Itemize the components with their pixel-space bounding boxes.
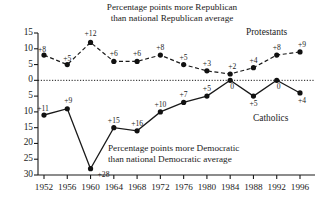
y-axis-tick-label: 15 (13, 123, 33, 132)
data-point (228, 71, 233, 76)
y-axis-tick-label: 25 (13, 154, 33, 163)
data-point-label: +3 (195, 60, 219, 68)
y-axis-tick-label: 15 (13, 28, 33, 37)
x-axis-tick-label: 1996 (285, 183, 315, 192)
y-axis-tick-label: 5 (13, 91, 33, 100)
data-point-label: +12 (79, 30, 103, 38)
data-point-label: +15 (102, 117, 126, 125)
data-point (251, 94, 256, 99)
data-point-label: +7 (172, 91, 196, 99)
data-point-label: +10 (148, 101, 172, 109)
y-axis-tick-label: 5 (13, 60, 33, 69)
data-point-label: +9 (290, 41, 314, 49)
data-point (181, 100, 186, 105)
data-point (251, 65, 256, 70)
x-axis-ticks (44, 175, 300, 179)
chart-container: Percentage points more Republican than n… (0, 0, 325, 202)
data-point-label: +11 (31, 105, 55, 113)
data-point-label: +4 (241, 57, 265, 65)
data-point (297, 49, 302, 54)
data-point (88, 40, 93, 45)
data-point-label: +6 (125, 50, 149, 58)
data-point (111, 125, 116, 130)
data-point (134, 128, 139, 133)
data-point (274, 52, 279, 57)
data-point-label: +8 (30, 46, 54, 54)
data-point (41, 112, 46, 117)
data-point (111, 59, 116, 64)
data-point-label: +8 (148, 44, 172, 52)
data-point-label: +5 (172, 54, 196, 62)
y-axis-tick-label: 0 (13, 75, 33, 84)
data-point-label: +5 (55, 55, 79, 63)
data-point-label: +16 (125, 120, 149, 128)
y-axis-tick-label: 10 (13, 107, 33, 116)
data-point (65, 62, 70, 67)
data-point (158, 52, 163, 57)
data-point-label: 0 (220, 83, 244, 91)
data-point-label: +5 (241, 100, 265, 108)
y-axis-tick-label: 20 (13, 138, 33, 147)
data-point (297, 90, 302, 95)
data-point (134, 59, 139, 64)
data-point-label: +9 (56, 97, 80, 105)
y-axis-tick-label: 30 (13, 170, 33, 179)
data-point-label: +8 (265, 44, 289, 52)
data-point (204, 68, 209, 73)
data-point-label: +5 (195, 85, 219, 93)
data-point-label: 0 (267, 83, 291, 91)
data-point (204, 94, 209, 99)
data-point (65, 106, 70, 111)
data-point-label: +6 (102, 50, 126, 58)
data-point-label: +28 (92, 171, 116, 179)
data-point (158, 109, 163, 114)
data-point-label: +4 (290, 97, 314, 105)
data-point (181, 62, 186, 67)
